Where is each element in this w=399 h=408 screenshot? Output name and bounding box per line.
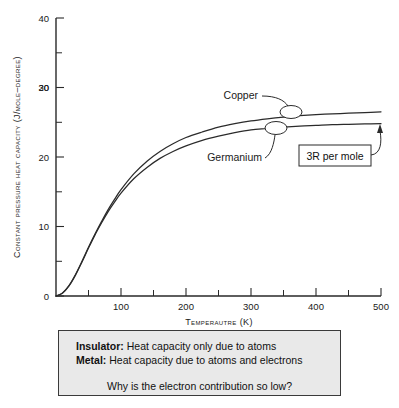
series-line-copper xyxy=(56,112,381,296)
three-r-callout: 3R per mole xyxy=(299,124,383,166)
germanium-leader-line xyxy=(265,135,275,158)
caption-line-metal: Metal: Heat capacity due to atoms and el… xyxy=(59,354,340,368)
x-axis-title: Temperautre (K) xyxy=(185,317,253,327)
x-tick-label-500: 500 xyxy=(373,301,389,312)
x-axis-tick-labels: 100 200 300 400 500 xyxy=(113,301,389,312)
germanium-label: Germanium xyxy=(207,151,262,163)
y-axis-title: Constant pressure heat capacity (J/mole–… xyxy=(12,56,22,258)
y-tick-label-10: 10 xyxy=(38,221,49,232)
x-axis-ticks xyxy=(89,288,382,296)
germanium-marker-ellipse xyxy=(265,122,287,135)
y-axis-ticks xyxy=(56,18,64,296)
y-tick-label-20-main: 20 xyxy=(38,152,49,163)
caption-metal-text: Heat capacity due to atoms and electrons xyxy=(106,354,302,366)
caption-panel: Insulator: Heat capacity only due to ato… xyxy=(58,330,341,396)
x-tick-label-100: 100 xyxy=(113,301,129,312)
caption-question: Why is the electron contribution so low? xyxy=(59,367,340,392)
caption-insulator-text: Heat capacity only due to atoms xyxy=(124,340,276,352)
three-r-arrow-line xyxy=(371,131,381,155)
y-tick-label-40: 40 xyxy=(38,13,49,24)
y-tick-label-30: 30 xyxy=(38,82,49,93)
caption-metal-label: Metal: xyxy=(76,354,106,366)
x-tick-label-400: 400 xyxy=(308,301,324,312)
y-axis-tick-labels: 0 10 20 20 20 30 40 xyxy=(38,13,49,302)
x-tick-label-300: 300 xyxy=(243,301,259,312)
copper-marker-ellipse xyxy=(280,106,302,119)
copper-leader-line xyxy=(262,96,288,106)
germanium-annotation: Germanium xyxy=(207,122,287,164)
three-r-arrow-head xyxy=(377,124,383,133)
caption-insulator-label: Insulator: xyxy=(76,340,124,352)
copper-label: Copper xyxy=(224,89,259,101)
y-tick-label-0: 0 xyxy=(44,291,49,302)
copper-annotation: Copper xyxy=(224,89,302,119)
x-tick-label-200: 200 xyxy=(178,301,194,312)
caption-line-insulator: Insulator: Heat capacity only due to ato… xyxy=(59,340,340,354)
three-r-label: 3R per mole xyxy=(306,150,363,162)
